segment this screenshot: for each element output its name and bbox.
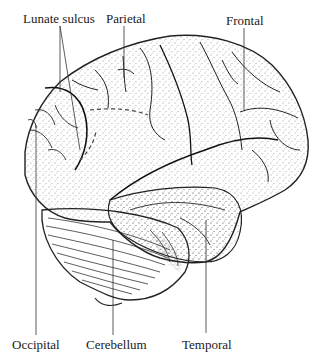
label-frontal: Frontal <box>226 14 264 28</box>
label-lunate-sulcus: Lunate sulcus <box>23 12 95 26</box>
label-occipital: Occipital <box>12 338 60 352</box>
label-parietal: Parietal <box>106 12 146 26</box>
brain-diagram: Lunate sulcus Parietal Frontal Occipital… <box>0 0 321 359</box>
label-temporal: Temporal <box>182 338 232 352</box>
brain-illustration <box>0 0 321 359</box>
label-cerebellum: Cerebellum <box>86 338 147 352</box>
